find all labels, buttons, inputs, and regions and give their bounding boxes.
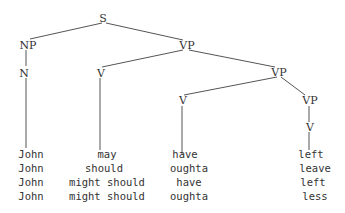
svg-text:John: John: [18, 176, 43, 188]
word-row-2: John should oughta leave: [18, 162, 330, 174]
node-vp3: VP: [301, 94, 318, 107]
svg-text:left: left: [300, 176, 325, 188]
svg-text:have: have: [172, 148, 197, 160]
edge-vp2-vp3: [281, 77, 305, 95]
svg-text:might should: might should: [69, 190, 145, 202]
svg-text:less: less: [302, 190, 327, 202]
edge-vp-vp2: [189, 50, 275, 67]
svg-text:might should: might should: [69, 176, 145, 188]
word-row-4: John might should oughta less: [18, 190, 327, 202]
node-vp: VP: [178, 39, 195, 52]
edge-vp2-v: [184, 77, 277, 95]
svg-text:oughta: oughta: [170, 190, 208, 202]
svg-text:John: John: [18, 162, 43, 174]
svg-text:oughta: oughta: [170, 162, 208, 174]
edge-vp-v: [102, 50, 183, 67]
word-row-3: John might should have left: [18, 176, 325, 188]
svg-text:should: should: [85, 162, 123, 174]
node-v: V: [96, 67, 106, 80]
node-s: S: [99, 12, 107, 25]
svg-text:may: may: [98, 148, 117, 160]
svg-text:John: John: [18, 190, 43, 202]
svg-text:leave: leave: [299, 162, 331, 174]
syntax-tree: S NP N VP V VP V VP V John may have left…: [0, 0, 345, 213]
svg-text:have: have: [176, 176, 201, 188]
edge-s-np: [30, 23, 102, 39]
node-np: NP: [19, 39, 37, 52]
edge-s-vp: [106, 23, 183, 40]
node-v2: V: [178, 94, 188, 107]
node-v3: V: [305, 121, 315, 134]
node-n: N: [19, 67, 29, 80]
svg-text:John: John: [18, 148, 43, 160]
svg-text:left: left: [298, 148, 323, 160]
word-row-1: John may have left: [18, 148, 323, 160]
node-vp2: VP: [270, 66, 287, 79]
